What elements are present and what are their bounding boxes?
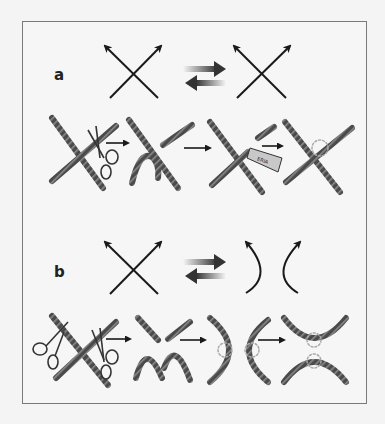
smoothed-arcs (246, 242, 300, 293)
knot-crossing-diagram: ERIA (0, 0, 385, 424)
crossing-b-left (105, 242, 161, 294)
ropes-b-step4 (284, 318, 346, 382)
double-arrow-b (183, 254, 226, 284)
crossing-a-right (234, 46, 290, 98)
glue-tube-icon: ERIA (247, 148, 282, 172)
double-arrow-a (183, 61, 226, 91)
ropes-b-step3 (210, 318, 268, 382)
ropes-b-step2 (136, 318, 190, 380)
ropes-a-step4 (285, 122, 352, 192)
ropes-a-step2 (129, 120, 192, 188)
crossing-a-left (105, 46, 161, 98)
